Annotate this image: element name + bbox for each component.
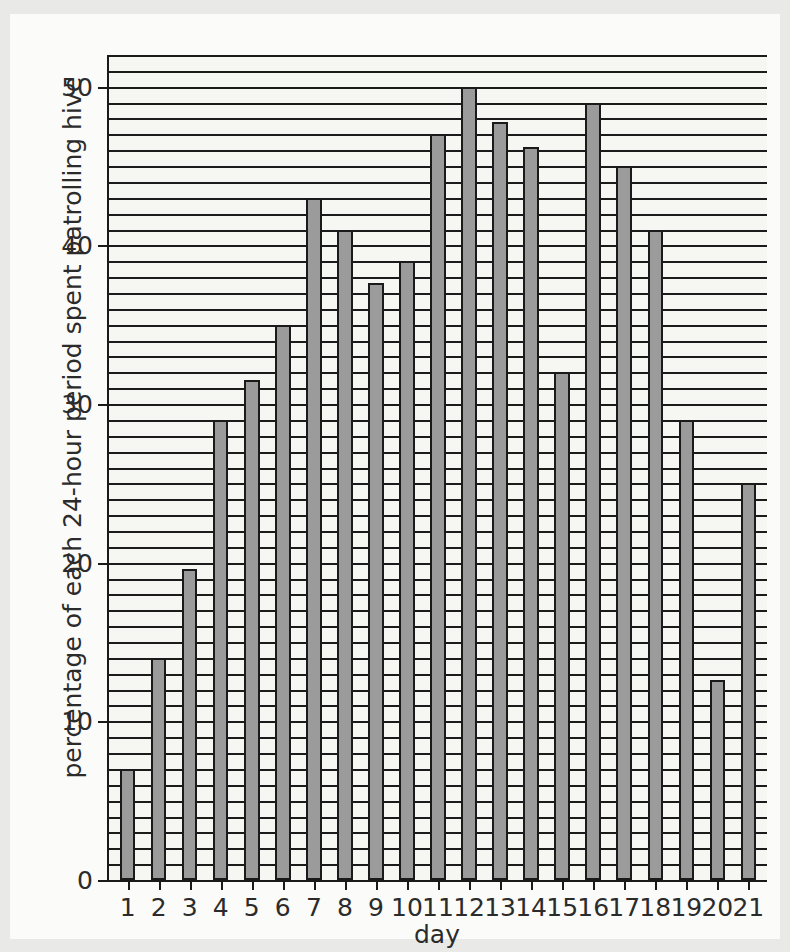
y-tick-mark (98, 87, 109, 89)
x-tick-mark (128, 880, 130, 890)
x-tick-mark (593, 880, 595, 890)
x-tick-mark (190, 880, 192, 890)
bar (244, 380, 260, 880)
bar (399, 261, 415, 880)
x-tick-label: 17 (608, 893, 640, 922)
x-tick-label: 9 (368, 893, 384, 922)
x-tick-label: 16 (577, 893, 609, 922)
x-tick-label: 8 (337, 893, 353, 922)
bar (616, 166, 632, 880)
x-tick-mark (686, 880, 688, 890)
bar (306, 198, 322, 880)
x-tick-mark (345, 880, 347, 890)
y-tick-mark (98, 721, 109, 723)
bar (648, 230, 664, 880)
plot-card: 01020304050 1234567891011121314151617181… (10, 14, 780, 939)
x-tick-mark (717, 880, 719, 890)
x-tick-label: 12 (453, 893, 485, 922)
x-tick-mark (252, 880, 254, 890)
x-tick-label: 1 (120, 893, 136, 922)
x-tick-mark (438, 880, 440, 890)
bar-series (109, 55, 767, 880)
x-tick-label: 13 (484, 893, 516, 922)
x-tick-mark (314, 880, 316, 890)
x-tick-label: 20 (701, 893, 733, 922)
bar (679, 420, 695, 880)
x-tick-label: 3 (182, 893, 198, 922)
bar (151, 658, 167, 880)
x-tick-label: 2 (151, 893, 167, 922)
y-tick-mark (98, 563, 109, 565)
bar (430, 134, 446, 880)
x-tick-label: 10 (391, 893, 423, 922)
x-tick-label: 18 (639, 893, 671, 922)
x-tick-mark (407, 880, 409, 890)
x-tick-mark (531, 880, 533, 890)
x-tick-label: 14 (515, 893, 547, 922)
y-tick-mark (98, 245, 109, 247)
x-tick-label: 7 (306, 893, 322, 922)
x-axis-title: day (107, 920, 767, 949)
y-tick-mark (98, 404, 109, 406)
bar (585, 103, 601, 880)
figure: 01020304050 1234567891011121314151617181… (0, 0, 790, 952)
x-tick-mark (655, 880, 657, 890)
x-tick-mark (748, 880, 750, 890)
x-tick-mark (283, 880, 285, 890)
bar (275, 325, 291, 880)
bar (368, 283, 384, 880)
x-tick-mark (500, 880, 502, 890)
y-tick-mark (98, 880, 109, 882)
bar (120, 769, 136, 880)
x-tick-mark (469, 880, 471, 890)
y-tick-label: 0 (77, 866, 93, 895)
bar (523, 147, 539, 880)
x-tick-label: 6 (275, 893, 291, 922)
x-tick-label: 19 (670, 893, 702, 922)
bar (554, 372, 570, 880)
x-tick-mark (624, 880, 626, 890)
x-tick-mark (221, 880, 223, 890)
x-tick-label: 5 (244, 893, 260, 922)
x-tick-label: 4 (213, 893, 229, 922)
x-tick-label: 21 (732, 893, 764, 922)
bar (182, 569, 198, 880)
bar (492, 122, 508, 880)
x-tick-mark (376, 880, 378, 890)
bar (213, 420, 229, 880)
bar (710, 680, 726, 880)
y-axis-title: percentage of each 24-hour period spent … (58, 139, 87, 779)
x-tick-mark (159, 880, 161, 890)
bar (741, 483, 757, 880)
bar (461, 87, 477, 880)
x-tick-mark (562, 880, 564, 890)
x-tick-label: 11 (422, 893, 454, 922)
plot-area: 01020304050 1234567891011121314151617181… (107, 55, 767, 882)
x-tick-label: 15 (546, 893, 578, 922)
bar (337, 230, 353, 880)
